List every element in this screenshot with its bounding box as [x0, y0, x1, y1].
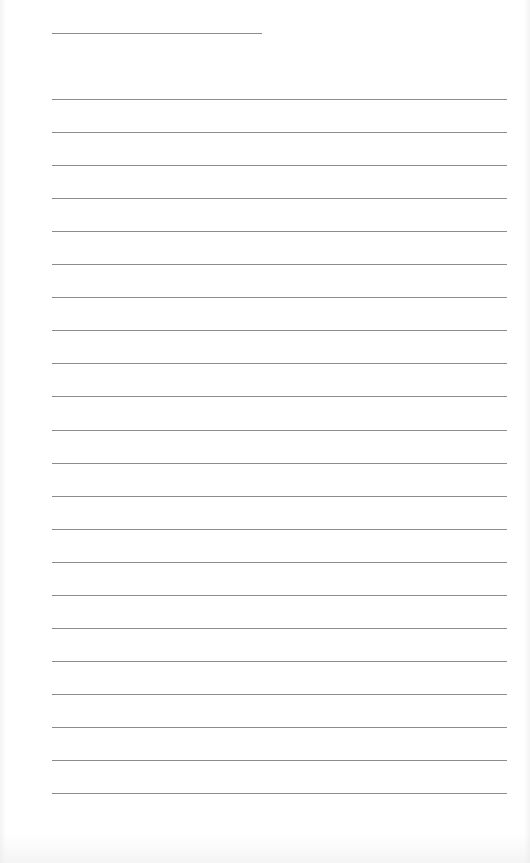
ruled-line: [52, 99, 507, 100]
ruled-line: [52, 496, 507, 497]
ruled-line: [52, 430, 507, 431]
ruled-line: [52, 793, 507, 794]
ruled-line: [52, 231, 507, 232]
ruled-line: [52, 165, 507, 166]
ruled-line: [52, 595, 507, 596]
ruled-line: [52, 330, 507, 331]
ruled-line: [52, 132, 507, 133]
ruled-line: [52, 628, 507, 629]
ruled-line: [52, 264, 507, 265]
ruled-line: [52, 297, 507, 298]
header-write-line: [52, 33, 262, 34]
ruled-line: [52, 562, 507, 563]
ruled-line: [52, 363, 507, 364]
page-edge-shading-right: [524, 0, 530, 863]
ruled-line: [52, 694, 507, 695]
ruled-line: [52, 727, 507, 728]
ruled-line: [52, 661, 507, 662]
ruled-line: [52, 529, 507, 530]
page-edge-shading-bottom: [0, 833, 530, 863]
page-edge-shading-left: [0, 0, 6, 863]
lined-paper-page: [0, 0, 530, 863]
ruled-line: [52, 198, 507, 199]
ruled-line: [52, 760, 507, 761]
ruled-line: [52, 396, 507, 397]
ruled-line: [52, 463, 507, 464]
